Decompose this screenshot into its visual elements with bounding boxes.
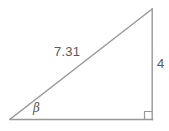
triangle-figure: 7.31 4 β [0, 0, 169, 131]
opposite-side-length-label: 4 [157, 57, 164, 70]
triangle-hypotenuse-line [10, 9, 152, 119]
hypotenuse-length-label: 7.31 [54, 45, 80, 58]
right-angle-marker-icon [145, 112, 153, 120]
triangle-drawing [0, 0, 169, 131]
angle-beta-label: β [33, 102, 40, 114]
